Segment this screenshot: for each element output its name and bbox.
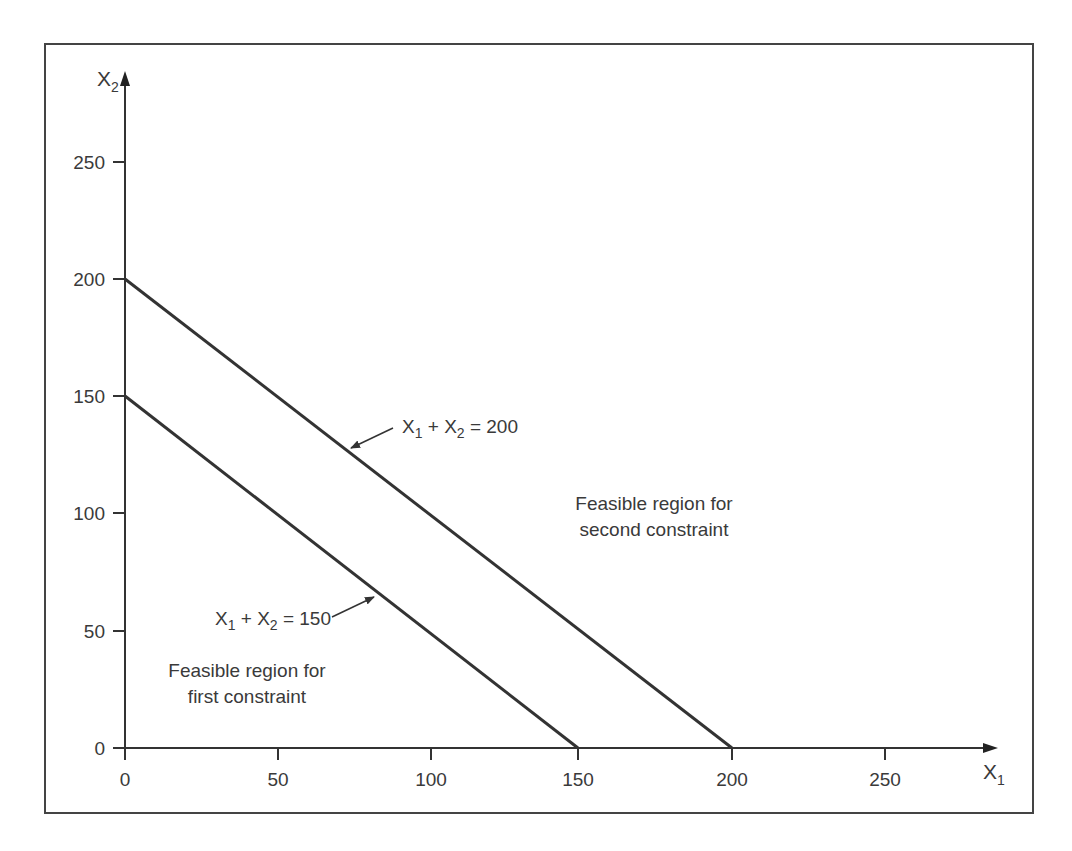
label-line-200: X1 + X2 = 200: [402, 416, 518, 441]
y-axis-title: X2: [97, 67, 119, 95]
chart: X2 0 50 100 150 200 250 X1 0 50 100 150 …: [0, 0, 1072, 851]
y-tick-label: 50: [84, 621, 105, 642]
y-tick-label: 0: [94, 738, 105, 759]
x-tick-label: 150: [562, 769, 594, 790]
x-tick-label: 100: [415, 769, 447, 790]
label-region-second: second constraint: [580, 519, 730, 540]
annotation-arrow-200: [351, 428, 393, 448]
y-tick-label: 200: [73, 269, 105, 290]
x-tick-label: 250: [869, 769, 901, 790]
x-axis: X1 0 50 100 150 200 250: [113, 743, 1005, 790]
y-axis: X2 0 50 100 150 200 250: [73, 67, 130, 759]
label-region-second: Feasible region for: [575, 493, 733, 514]
label-region-first: first constraint: [188, 686, 307, 707]
x-tick-label: 0: [120, 769, 131, 790]
x-tick-label: 50: [267, 769, 288, 790]
label-region-first: Feasible region for: [168, 660, 326, 681]
x-tick-label: 200: [716, 769, 748, 790]
x-axis-title: X1: [983, 760, 1005, 788]
y-tick-label: 150: [73, 386, 105, 407]
label-line-150: X1 + X2 = 150: [215, 608, 331, 633]
annotation-arrow-150: [332, 597, 374, 617]
y-axis-arrow-icon: [120, 71, 130, 86]
x-axis-arrow-icon: [983, 743, 998, 753]
y-tick-label: 250: [73, 152, 105, 173]
y-tick-label: 100: [73, 503, 105, 524]
